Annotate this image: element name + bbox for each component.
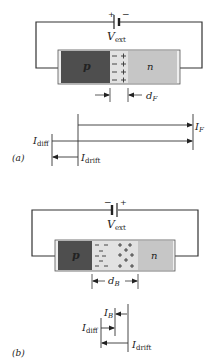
dF-label: dF	[146, 90, 158, 103]
IF-label: IF	[194, 121, 205, 134]
battery-minus-sign-a: −	[122, 9, 130, 19]
n-label-b: n	[151, 250, 157, 261]
p-label-b: p	[72, 249, 80, 262]
n-label-a: n	[147, 61, 153, 72]
diagram-svg: + − Vext p n dF	[0, 0, 210, 361]
panel-b: − + Vext p n	[12, 197, 198, 358]
battery-plus-sign-a: +	[108, 10, 115, 19]
vext-label-b: Vext	[107, 218, 126, 232]
Idrift-label-b: Idrift	[131, 339, 152, 352]
Idiff-label-a: Idiff	[32, 135, 50, 148]
IB-label: IB	[103, 307, 113, 320]
pn-junction-figure: + − Vext p n dF	[0, 0, 210, 361]
panel-a-label: (a)	[12, 153, 25, 163]
depletion-width-marker-a	[95, 88, 142, 102]
panel-b-label: (b)	[12, 348, 25, 358]
vext-label-a: Vext	[107, 30, 126, 44]
dB-label: dB	[108, 275, 120, 288]
Idrift-label-a: Idrift	[80, 152, 101, 165]
battery-minus-sign-b: −	[104, 197, 112, 207]
battery-icon-b	[112, 203, 117, 217]
diode-a	[58, 50, 180, 84]
Idiff-label-b: Idiff	[81, 322, 99, 335]
battery-plus-sign-b: +	[120, 198, 127, 207]
panel-a: + − Vext p n dF	[12, 9, 205, 166]
battery-icon-a	[114, 15, 119, 29]
p-label-a: p	[83, 60, 91, 73]
current-arrows-a	[52, 114, 193, 166]
